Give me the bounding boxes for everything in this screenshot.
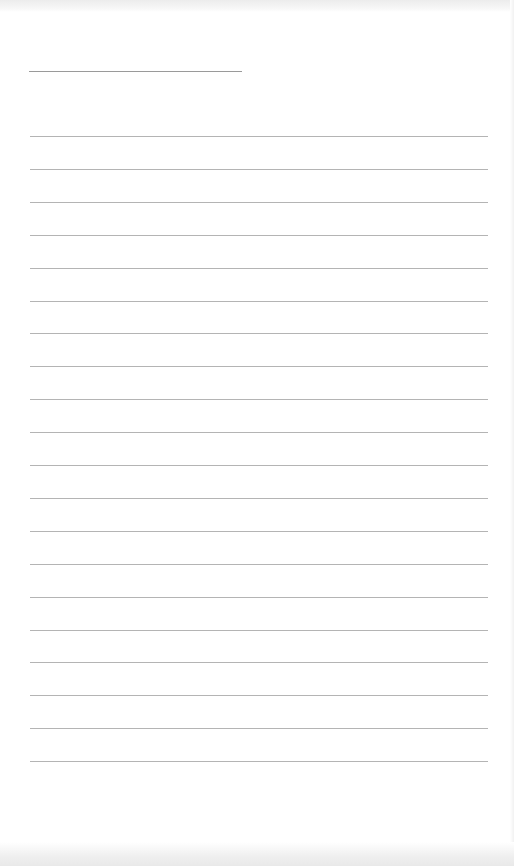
ruled-line [30,630,488,631]
scan-top-shading [0,0,514,12]
ruled-line [30,597,488,598]
ruled-line [30,301,488,302]
ruled-line [30,695,488,696]
ruled-line [30,268,488,269]
ruled-line [30,465,488,466]
ruled-line [30,531,488,532]
ruled-line [30,235,488,236]
ruled-line [30,432,488,433]
ruled-line [30,498,488,499]
ruled-line [30,564,488,565]
title-underline [29,71,242,72]
ruled-line [30,333,488,334]
ruled-line [30,399,488,400]
ruled-line [30,169,488,170]
scan-right-edge [510,0,514,866]
ruled-line [30,761,488,762]
ruled-line [30,728,488,729]
scan-bottom-shading [0,842,514,866]
ruled-line [30,136,488,137]
ruled-line [30,662,488,663]
ruled-line [30,202,488,203]
ruled-line [30,366,488,367]
